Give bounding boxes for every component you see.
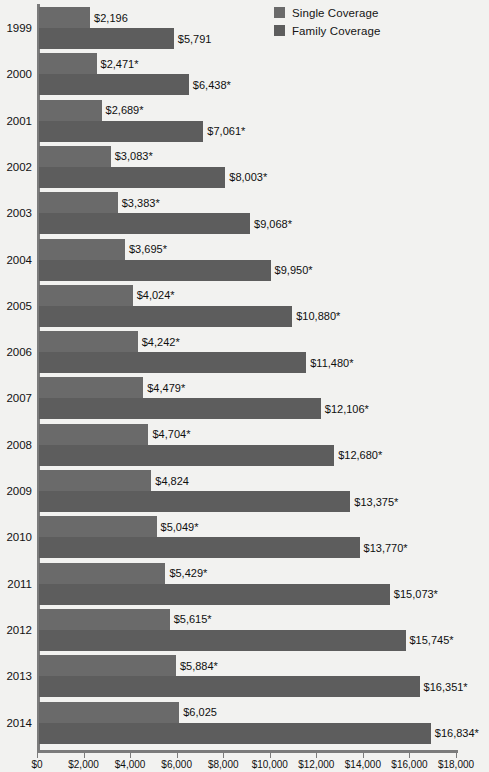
bar-family-coverage[interactable] (39, 445, 334, 466)
bar-value-label: $2,196 (90, 12, 128, 24)
bar-family-coverage[interactable] (39, 121, 203, 142)
bar-single-coverage[interactable] (39, 53, 97, 74)
chart-container: Single CoverageFamily Coverage $0$2,000$… (0, 0, 489, 772)
bar-single-coverage[interactable] (39, 7, 90, 28)
bar-value-label: $5,615* (170, 613, 212, 625)
x-axis-line (37, 750, 458, 753)
x-axis-tick-label: $6,000 (161, 759, 192, 770)
bar-value-label: $5,049* (157, 521, 199, 533)
y-axis-category-label: 2009 (0, 485, 32, 497)
bar-value-label: $6,025 (179, 706, 217, 718)
x-axis-tick (409, 753, 410, 758)
bar-value-label: $3,083* (111, 150, 153, 162)
y-axis-category-label: 2003 (0, 207, 32, 219)
bar-family-coverage[interactable] (39, 260, 271, 281)
x-axis-tick (177, 753, 178, 758)
bar-family-coverage[interactable] (39, 676, 420, 697)
x-axis-tick (316, 753, 317, 758)
bar-family-coverage[interactable] (39, 398, 321, 419)
y-axis-category-label: 1999 (0, 22, 32, 34)
bar-family-coverage[interactable] (39, 723, 431, 744)
x-axis-tick-label: $2,000 (68, 759, 99, 770)
bar-family-coverage[interactable] (39, 167, 225, 188)
bar-value-label: $12,680* (334, 449, 382, 461)
x-axis-tick-label: $14,000 (345, 759, 381, 770)
bar-value-label: $4,242* (138, 336, 180, 348)
bar-single-coverage[interactable] (39, 609, 170, 630)
y-axis-category-label: 2013 (0, 670, 32, 682)
bar-value-label: $16,834* (431, 727, 479, 739)
bar-single-coverage[interactable] (39, 285, 133, 306)
x-axis-tick-label: $16,000 (391, 759, 427, 770)
bar-single-coverage[interactable] (39, 146, 111, 167)
x-axis-tick-label: $12,000 (298, 759, 334, 770)
bar-value-label: $5,884* (176, 660, 218, 672)
bar-single-coverage[interactable] (39, 424, 148, 445)
y-axis-category-label: 2004 (0, 254, 32, 266)
bar-value-label: $11,480* (306, 357, 353, 369)
x-axis-tick (270, 753, 271, 758)
x-axis-tick-label: $8,000 (208, 759, 239, 770)
y-axis-category-label: 2005 (0, 300, 32, 312)
bar-value-label: $6,438* (189, 79, 231, 91)
bar-single-coverage[interactable] (39, 702, 179, 723)
y-axis-category-label: 2006 (0, 346, 32, 358)
x-axis-tick (84, 753, 85, 758)
bar-family-coverage[interactable] (39, 584, 390, 605)
x-axis-tick-label: $0 (31, 759, 42, 770)
bar-value-label: $3,695* (125, 243, 167, 255)
bar-value-label: $4,824 (151, 475, 189, 487)
plot-area: $0$2,000$4,000$6,000$8,000$10,000$12,000… (0, 0, 489, 755)
bar-value-label: $8,003* (225, 171, 267, 183)
bar-family-coverage[interactable] (39, 28, 174, 49)
y-axis-category-label: 2007 (0, 392, 32, 404)
y-axis-category-label: 2012 (0, 624, 32, 636)
bar-single-coverage[interactable] (39, 331, 138, 352)
x-axis-tick (456, 753, 457, 758)
x-axis-tick-label: $4,000 (115, 759, 146, 770)
bar-family-coverage[interactable] (39, 213, 250, 234)
x-axis-tick (223, 753, 224, 758)
bar-single-coverage[interactable] (39, 100, 102, 121)
bar-value-label: $5,791 (174, 33, 212, 45)
bar-value-label: $15,073* (390, 588, 438, 600)
bar-single-coverage[interactable] (39, 563, 165, 584)
y-axis-category-label: 2011 (0, 578, 32, 590)
bar-value-label: $5,429* (165, 567, 207, 579)
bar-value-label: $7,061* (203, 125, 245, 137)
x-axis-tick-label: $18,000 (438, 759, 474, 770)
bar-family-coverage[interactable] (39, 306, 292, 327)
bar-single-coverage[interactable] (39, 516, 157, 537)
bar-value-label: $13,375* (350, 496, 398, 508)
bar-value-label: $4,704* (148, 428, 190, 440)
bar-family-coverage[interactable] (39, 74, 189, 95)
bar-family-coverage[interactable] (39, 630, 406, 651)
bar-value-label: $12,106* (321, 403, 369, 415)
x-axis-tick (363, 753, 364, 758)
bar-value-label: $16,351* (420, 681, 468, 693)
bar-value-label: $10,880* (292, 310, 340, 322)
bar-value-label: $9,068* (250, 218, 292, 230)
bar-single-coverage[interactable] (39, 239, 125, 260)
bar-single-coverage[interactable] (39, 377, 143, 398)
bar-value-label: $15,745* (406, 634, 454, 646)
x-axis-tick-label: $10,000 (252, 759, 288, 770)
y-axis-category-label: 2008 (0, 439, 32, 451)
y-axis-category-label: 2010 (0, 531, 32, 543)
bar-value-label: $2,689* (102, 104, 144, 116)
y-axis-category-label: 2001 (0, 115, 32, 127)
y-axis-category-label: 2000 (0, 68, 32, 80)
bar-value-label: $4,479* (143, 382, 185, 394)
x-axis-tick (130, 753, 131, 758)
x-axis-tick (37, 753, 38, 758)
y-axis-category-label: 2014 (0, 717, 32, 729)
bar-family-coverage[interactable] (39, 537, 360, 558)
bar-family-coverage[interactable] (39, 491, 350, 512)
bar-family-coverage[interactable] (39, 352, 306, 373)
bar-value-label: $4,024* (133, 289, 175, 301)
bar-single-coverage[interactable] (39, 470, 151, 491)
y-axis-category-label: 2002 (0, 161, 32, 173)
bar-value-label: $9,950* (271, 264, 313, 276)
bar-single-coverage[interactable] (39, 192, 118, 213)
bar-single-coverage[interactable] (39, 655, 176, 676)
